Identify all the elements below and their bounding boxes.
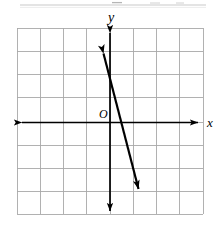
coordinate-plane-canvas	[0, 0, 221, 233]
y-axis-label: y	[108, 11, 114, 25]
origin-label: O	[99, 108, 108, 120]
coordinate-plane-figure: y x O	[0, 0, 221, 233]
x-axis-label: x	[207, 116, 213, 129]
